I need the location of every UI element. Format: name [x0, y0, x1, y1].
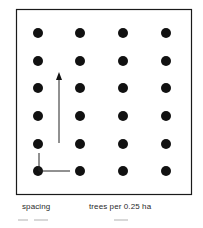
tree-dot	[75, 166, 85, 176]
cropped-text-fragment	[34, 219, 48, 221]
tree-dot	[118, 166, 128, 176]
tree-dot	[75, 28, 85, 38]
cropped-text-fragment	[18, 219, 28, 221]
spacing-marker	[39, 153, 70, 171]
tree-dot	[75, 111, 85, 121]
tree-dot	[33, 56, 43, 66]
tree-dot	[118, 83, 128, 93]
arrowhead-icon	[56, 72, 62, 80]
tree-dot	[118, 111, 128, 121]
spacing-label: spacing	[22, 202, 50, 211]
tree-dot	[161, 166, 171, 176]
tree-dot	[33, 83, 43, 93]
trees-per-area-label: trees per 0.25 ha	[89, 202, 151, 211]
tree-dot-grid	[33, 28, 171, 176]
tree-dot	[33, 111, 43, 121]
tree-dot	[75, 83, 85, 93]
tree-dot	[161, 111, 171, 121]
tree-dot	[75, 56, 85, 66]
tree-dot	[33, 139, 43, 149]
tree-dot	[118, 28, 128, 38]
tree-dot	[118, 56, 128, 66]
tree-dot	[161, 56, 171, 66]
tree-spacing-diagram	[0, 0, 203, 200]
tree-dot	[75, 139, 85, 149]
tree-dot	[118, 139, 128, 149]
tree-dot	[161, 139, 171, 149]
tree-dot	[161, 28, 171, 38]
tree-dot	[33, 28, 43, 38]
cropped-text-fragment	[114, 219, 128, 221]
tree-dot	[161, 83, 171, 93]
direction-arrow	[56, 72, 62, 143]
